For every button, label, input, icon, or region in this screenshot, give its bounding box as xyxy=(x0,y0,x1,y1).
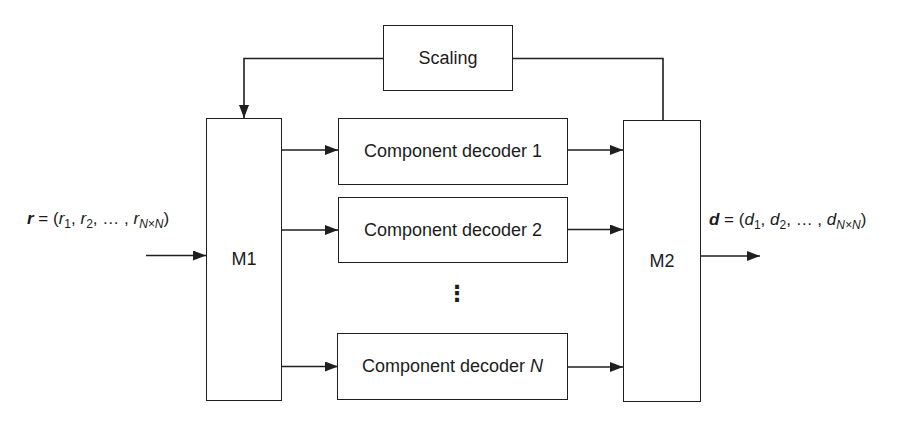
decoder-n-name: Component decoder xyxy=(362,356,525,377)
component-decoder-2-label: Component decoder2 xyxy=(364,220,542,241)
component-decoder-n-label: Component decoderN xyxy=(362,356,543,377)
input-eq: = ( xyxy=(34,209,59,228)
decoder-n-index: N xyxy=(530,356,543,377)
decoder-2-index: 2 xyxy=(532,220,542,241)
output-close-paren: ) xyxy=(861,210,867,229)
output-elem-2: d xyxy=(770,210,779,229)
decoder-2-name: Component decoder xyxy=(364,220,527,241)
output-elem-1: d xyxy=(744,210,753,229)
component-decoder-1-label: Component decoder1 xyxy=(364,141,542,162)
output-eq: = ( xyxy=(719,210,744,229)
input-sub-2: 2 xyxy=(86,217,93,231)
m1-box: M1 xyxy=(206,118,282,401)
scaling-box: Scaling xyxy=(383,25,513,91)
scaling-label: Scaling xyxy=(418,48,477,69)
decoder-1-index: 1 xyxy=(532,141,542,162)
component-decoder-1-box: Component decoder1 xyxy=(338,118,568,185)
input-ellipsis-comma: , … , xyxy=(93,209,134,228)
decoder-1-name: Component decoder xyxy=(364,141,527,162)
decoder-block-diagram: Scaling M1 M2 Component decoder1 Compone… xyxy=(0,0,924,428)
output-ellipsis-comma: , … , xyxy=(786,210,827,229)
m1-label: M1 xyxy=(231,249,256,270)
vertical-ellipsis: ⋮ xyxy=(446,281,468,307)
input-var: r xyxy=(27,209,34,228)
feedback-arrow-scaling-to-m1 xyxy=(244,59,383,119)
output-elem-n: d xyxy=(827,210,836,229)
output-sub-1: 1 xyxy=(754,218,761,232)
m2-box: M2 xyxy=(623,120,701,402)
output-comma-1: , xyxy=(761,210,770,229)
component-decoder-n-box: Component decoderN xyxy=(337,333,568,400)
output-vector-label: d = (d1, d2, … , dN×N) xyxy=(709,210,866,230)
input-sub-n: N×N xyxy=(139,217,163,231)
output-var: d xyxy=(709,210,719,229)
input-close-paren: ) xyxy=(163,209,169,228)
component-decoder-2-box: Component decoder2 xyxy=(338,197,568,263)
input-vector-label: r = (r1, r2, … , rN×N) xyxy=(27,209,169,229)
feedback-line-m2-to-scaling xyxy=(513,59,663,121)
output-sub-n: N×N xyxy=(836,218,860,232)
m2-label: M2 xyxy=(649,251,674,272)
